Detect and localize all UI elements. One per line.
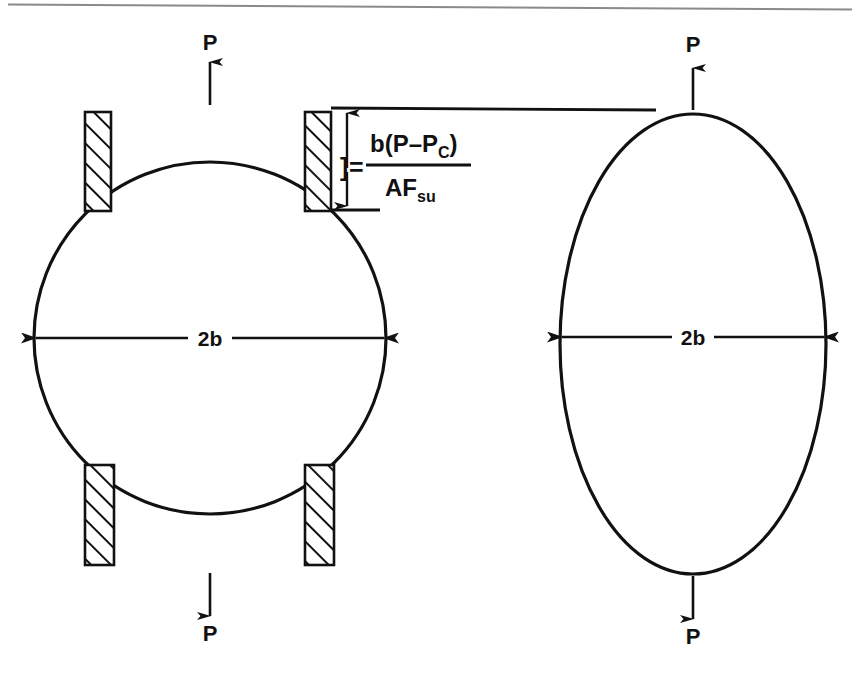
top-rule	[8, 5, 852, 10]
annotation-fraction: b(P–PC) AFsu	[366, 130, 471, 205]
platen-bottom-left	[85, 465, 114, 565]
fraction-denominator: AFsu	[385, 174, 436, 205]
denominator-subscript: su	[417, 188, 436, 205]
numerator-close: )	[450, 130, 458, 157]
platen-top-right	[305, 112, 331, 211]
denominator-main: AF	[385, 174, 417, 201]
left-bottom-load-label: P	[203, 621, 218, 646]
annotation-leader-line	[331, 108, 656, 110]
right-panel: P 2b P	[560, 32, 826, 649]
platen-top-left	[85, 112, 111, 211]
annotation-bracket: ]	[340, 153, 348, 181]
figure-canvas: P 2b P	[0, 0, 859, 677]
numerator-p: P	[422, 130, 438, 157]
numerator-p-subscript: C	[438, 144, 450, 161]
left-top-load-label: P	[203, 30, 218, 55]
left-diameter-label: 2b	[198, 327, 223, 350]
deflection-annotation: ] = b(P–PC) AFsu	[331, 108, 656, 210]
left-panel: P 2b P	[34, 30, 386, 646]
numerator-lead: b(P	[370, 130, 409, 157]
right-top-load-label: P	[686, 32, 701, 57]
fraction-numerator: b(P–PC)	[370, 130, 458, 161]
right-bottom-load-label: P	[686, 624, 701, 649]
right-diameter-label: 2b	[681, 326, 706, 349]
numerator-minus: –	[409, 130, 422, 157]
platen-bottom-right	[305, 465, 334, 565]
annotation-equals: =	[349, 153, 364, 181]
diagram-svg: P 2b P	[0, 0, 859, 677]
